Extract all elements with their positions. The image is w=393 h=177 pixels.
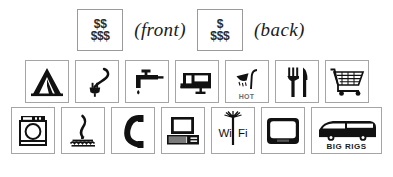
amenity-cell-hot-shower: HOT <box>225 60 269 103</box>
big-rigs-caption: BIG RIGS <box>312 142 381 151</box>
hot-shower-icon <box>231 67 263 97</box>
price-box-back: $ $$$ <box>197 9 243 51</box>
electric-plug-icon <box>80 65 114 99</box>
rv-trailer-icon <box>178 67 216 97</box>
price-box-front-line2: $$$ <box>91 30 110 42</box>
amenity-cell-laundry <box>11 107 55 154</box>
price-box-back-line2: $$$ <box>210 30 229 42</box>
amenity-cell-store <box>325 60 369 103</box>
amenity-icon-grid: HOT <box>0 60 393 154</box>
wifi-icon: Wi Fi <box>214 111 252 151</box>
amenity-cell-boat-ramp <box>61 107 105 154</box>
amenity-cell-rv <box>175 60 219 103</box>
amenity-cell-television <box>261 107 305 154</box>
boat-ramp-icon <box>65 112 101 150</box>
amenity-cell-tent <box>25 60 69 103</box>
amenity-cell-telephone <box>111 107 155 154</box>
amenity-cell-water <box>125 60 169 103</box>
washing-machine-icon <box>16 112 50 150</box>
tent-icon <box>28 66 66 98</box>
price-box-front: $$ $$$ <box>77 9 123 51</box>
amenity-cell-electric <box>75 60 119 103</box>
amenity-cell-computer <box>161 107 205 154</box>
svg-text:Wi: Wi <box>219 127 232 139</box>
front-label: (front) <box>134 19 186 41</box>
amenity-icon-row-1: HOT <box>0 60 393 103</box>
amenity-cell-restaurant <box>275 60 319 103</box>
fork-knife-icon <box>282 65 312 99</box>
computer-icon <box>164 114 202 148</box>
price-rating-row: $$ $$$ (front) $ $$$ (back) <box>0 4 393 56</box>
hot-shower-caption: HOT <box>226 93 268 100</box>
amenity-cell-big-rigs: BIG RIGS <box>311 107 382 154</box>
amenity-icon-row-2: Wi Fi <box>0 107 393 154</box>
amenity-legend-sheet: $$ $$$ (front) $ $$$ (back) <box>0 0 393 177</box>
big-rigs-bus-icon <box>315 117 379 145</box>
shopping-cart-icon <box>328 67 366 97</box>
television-icon <box>264 115 302 147</box>
back-label: (back) <box>254 19 305 41</box>
telephone-icon <box>118 112 148 150</box>
amenity-cell-wifi: Wi Fi <box>211 107 255 154</box>
water-faucet-icon <box>128 66 166 98</box>
svg-text:Fi: Fi <box>238 127 248 139</box>
